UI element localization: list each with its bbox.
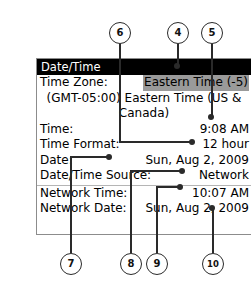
panel-title-bar: Date/Time xyxy=(37,59,251,75)
row-time-zone[interactable]: Time Zone: Eastern Time (-5) xyxy=(37,75,251,91)
time-zone-value[interactable]: Eastern Time (-5) xyxy=(143,75,249,91)
callout-leader-6-horizontal xyxy=(119,141,192,143)
callout-marker-10: 10 xyxy=(202,253,224,275)
date-time-settings-panel: Date/Time Time Zone: Eastern Time (-5) (… xyxy=(36,58,251,235)
network-time-label: Network Time: xyxy=(40,186,127,202)
network-time-value: 10:07 AM xyxy=(192,186,249,202)
callout-number-10: 10 xyxy=(207,260,219,269)
callout-leader-7-vertical xyxy=(70,158,72,253)
callout-leader-9-vertical xyxy=(156,188,158,253)
callout-leader-8-horizontal xyxy=(130,170,182,172)
time-value[interactable]: 9:08 AM xyxy=(200,122,249,138)
date-time-source-value[interactable]: Network xyxy=(199,168,249,184)
callout-dot-6 xyxy=(189,139,195,145)
callout-dot-8 xyxy=(179,168,185,174)
callout-leader-6-vertical xyxy=(119,44,121,143)
callout-number-9: 9 xyxy=(154,259,161,269)
callout-marker-8: 8 xyxy=(120,253,142,275)
callout-number-6: 6 xyxy=(117,28,124,38)
network-date-value: Sun, Aug 2, 2009 xyxy=(145,201,249,217)
time-format-value[interactable]: 12 hour xyxy=(202,137,249,153)
time-zone-label: Time Zone: xyxy=(40,75,108,91)
row-time[interactable]: Time: 9:08 AM xyxy=(37,122,251,138)
time-format-label: Time Format: xyxy=(40,137,120,153)
callout-leader-10-vertical xyxy=(212,208,214,253)
callout-dot-5 xyxy=(208,114,214,120)
callout-number-4: 4 xyxy=(175,28,182,38)
callout-marker-4: 4 xyxy=(167,22,189,44)
callout-marker-6: 6 xyxy=(109,22,131,44)
row-time-format[interactable]: Time Format: 12 hour xyxy=(37,137,251,153)
time-zone-description: (GMT-05:00) Eastern Time (US & Canada) xyxy=(37,91,251,122)
callout-leader-7-horizontal xyxy=(70,156,109,158)
callout-number-8: 8 xyxy=(128,259,135,269)
time-label: Time: xyxy=(40,122,73,138)
callout-dot-10 xyxy=(209,205,215,211)
date-label: Date: xyxy=(40,153,73,169)
callout-leader-8-vertical xyxy=(130,172,132,253)
network-date-label: Network Date: xyxy=(40,201,127,217)
callout-number-5: 5 xyxy=(209,28,216,38)
callout-marker-7: 7 xyxy=(60,253,82,275)
callout-number-7: 7 xyxy=(68,259,75,269)
callout-marker-9: 9 xyxy=(146,253,168,275)
callout-dot-9 xyxy=(177,184,183,190)
date-value[interactable]: Sun, Aug 2, 2009 xyxy=(145,153,249,169)
callout-dot-4 xyxy=(174,63,180,69)
callout-leader-5-vertical xyxy=(211,44,213,117)
callout-marker-5: 5 xyxy=(201,22,223,44)
callout-dot-7 xyxy=(106,154,112,160)
page-title: Date/Time xyxy=(41,60,101,74)
